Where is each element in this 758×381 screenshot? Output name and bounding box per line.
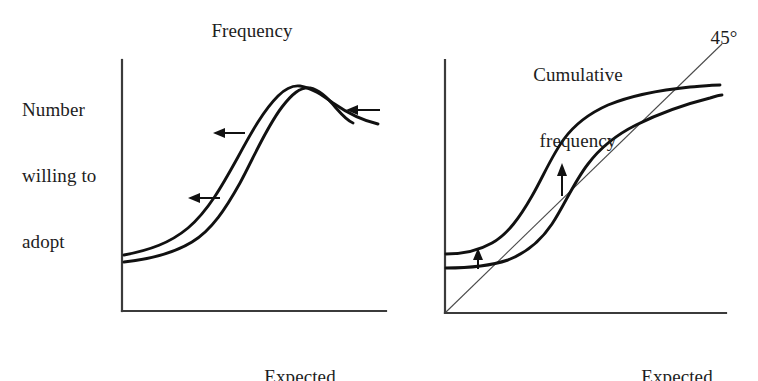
frequency-panel [122,60,386,311]
cumulative-title-line-2: frequency [484,130,672,152]
frequency-y-axis-label-line-2: willing to [22,165,118,187]
cumulative-title-line-1: Cumulative [484,64,672,86]
frequency-panel-title: Frequency [178,20,326,42]
frequency-y-axis-label-line-1: Number [22,99,118,121]
cumulative-x-axis-label-line-1: Expected [595,366,758,381]
frequency-x-axis-label: Expected network size [213,322,387,381]
cumulative-x-axis-label: Expected network size [595,322,758,381]
frequency-y-axis-label: Number willing to adopt [22,55,118,297]
cumulative-45-degree-label: 45° [700,27,748,49]
cumulative-frequency-panel-title: Cumulative frequency [484,20,672,196]
frequency-curve-baseline [124,88,353,262]
frequency-shift-arrow-upper [213,128,245,138]
frequency-y-axis-label-line-3: adopt [22,231,118,253]
figure-root: Frequency Number willing to adopt Expect… [0,0,758,381]
frequency-x-axis-label-line-1: Expected [213,366,387,381]
